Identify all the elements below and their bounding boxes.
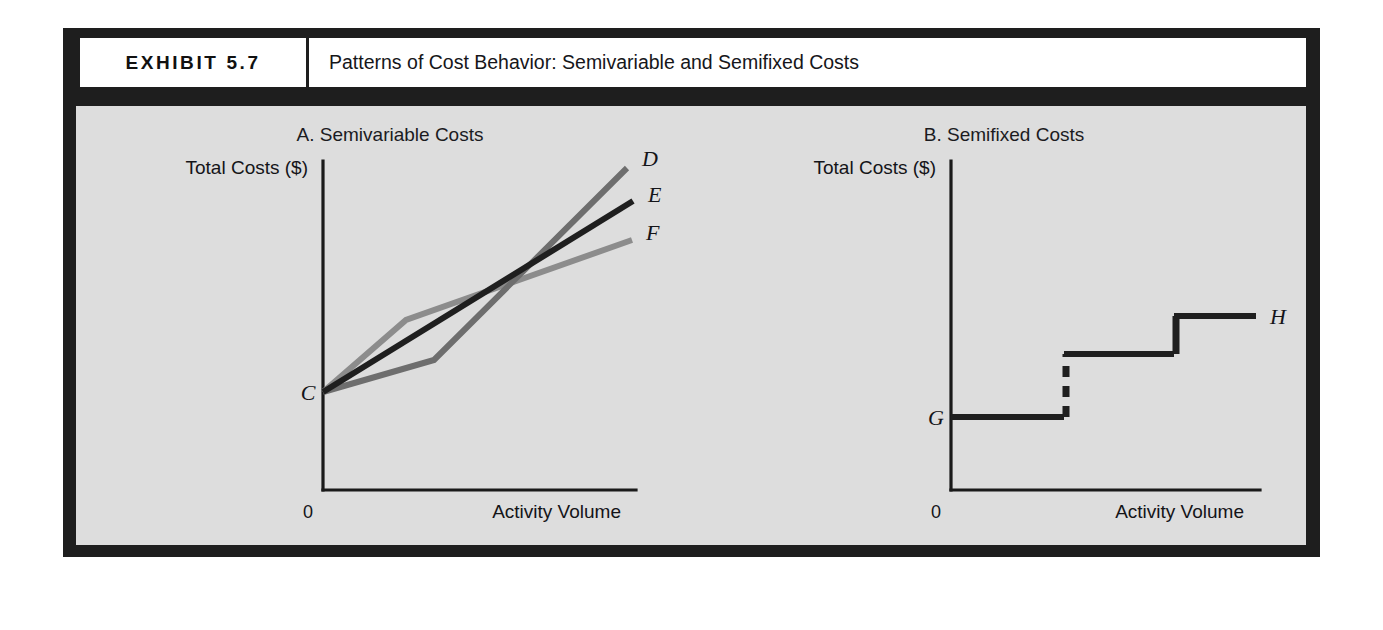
- chart-a-title: A. Semivariable Costs: [297, 124, 484, 145]
- chart-b-title: B. Semifixed Costs: [924, 124, 1085, 145]
- chart-b-point-g-label: G: [928, 405, 944, 430]
- chart-b-point-h-label: H: [1269, 304, 1287, 329]
- exhibit-body-frame: A. Semivariable Costs Total Costs ($) Ac…: [63, 96, 1320, 557]
- chart-a-canvas: A. Semivariable Costs Total Costs ($) Ac…: [76, 106, 704, 545]
- chart-a-point-d-label: D: [641, 146, 658, 171]
- exhibit-title-text: Patterns of Cost Behavior: Semivariable …: [329, 51, 859, 74]
- chart-a-point-c-label: C: [301, 380, 316, 405]
- exhibit-header-inner: EXHIBIT 5.7 Patterns of Cost Behavior: S…: [80, 38, 1306, 87]
- chart-b-canvas: B. Semifixed Costs Total Costs ($) Activ…: [704, 106, 1306, 545]
- exhibit-header-bar: EXHIBIT 5.7 Patterns of Cost Behavior: S…: [63, 28, 1320, 96]
- chart-b-x-axis-label: Activity Volume: [1115, 501, 1244, 522]
- chart-a-origin-label: 0: [303, 502, 313, 522]
- exhibit-number-label: EXHIBIT 5.7: [125, 52, 260, 74]
- chart-a-x-axis-label: Activity Volume: [492, 501, 621, 522]
- exhibit-body-panel: A. Semivariable Costs Total Costs ($) Ac…: [76, 106, 1306, 545]
- exhibit-number-cell: EXHIBIT 5.7: [80, 38, 306, 87]
- chart-a-series-E-line: [323, 201, 633, 392]
- exhibit-block: EXHIBIT 5.7 Patterns of Cost Behavior: S…: [63, 28, 1320, 557]
- chart-a-point-f-label: F: [645, 220, 660, 245]
- chart-a-series-D-line: [323, 168, 627, 392]
- chart-a-y-axis-label: Total Costs ($): [186, 157, 308, 178]
- chart-b-origin-label: 0: [931, 502, 941, 522]
- exhibit-title-cell: Patterns of Cost Behavior: Semivariable …: [309, 38, 1306, 87]
- chart-semivariable-costs: A. Semivariable Costs Total Costs ($) Ac…: [76, 106, 704, 545]
- chart-semifixed-costs: B. Semifixed Costs Total Costs ($) Activ…: [704, 106, 1306, 545]
- chart-b-y-axis-label: Total Costs ($): [814, 157, 936, 178]
- chart-a-point-e-label: E: [647, 182, 662, 207]
